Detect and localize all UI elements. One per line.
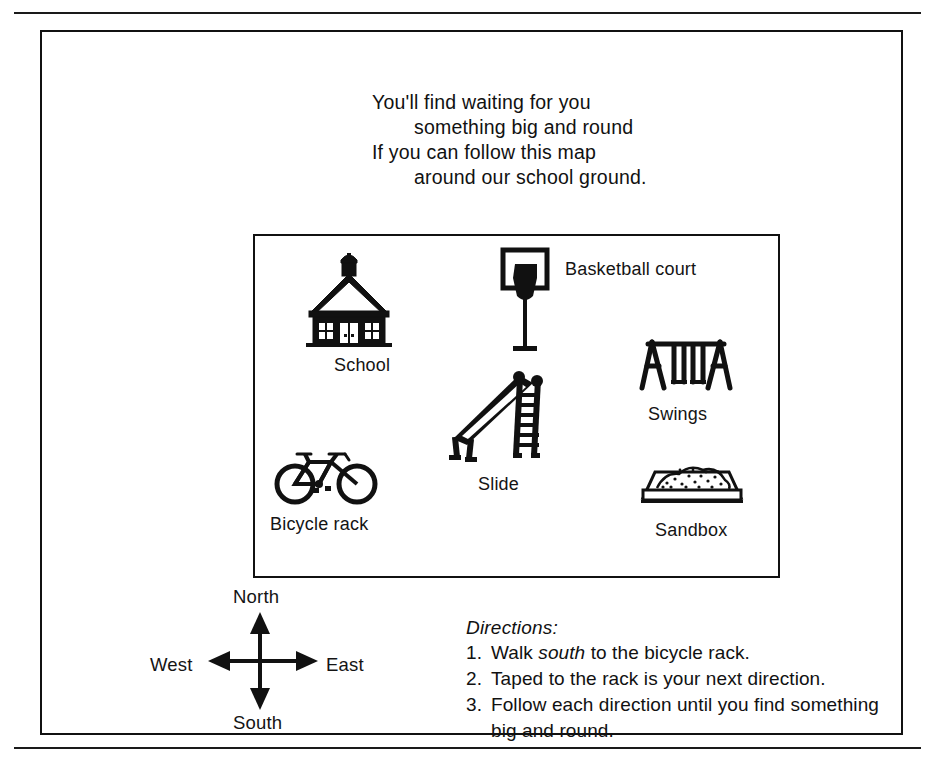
content-frame: You'll find waiting for you something bi… xyxy=(40,30,903,735)
poem-line-2: something big and round xyxy=(372,115,792,140)
poem-block: You'll find waiting for you something bi… xyxy=(372,90,792,190)
map-item-sandbox: Sandbox xyxy=(637,454,747,541)
playground-slide-icon xyxy=(441,369,551,473)
bicycle-icon xyxy=(269,444,387,510)
direction-step-1: 1. Walk south to the bicycle rack. xyxy=(466,640,896,666)
direction-text-3: Follow each direction until you find som… xyxy=(491,692,896,744)
worksheet-page: You'll find waiting for you something bi… xyxy=(0,0,935,769)
map-item-swings: Swings xyxy=(638,336,734,425)
direction-text-2: Taped to the rack is your next direction… xyxy=(491,666,896,692)
directions-list: 1. Walk south to the bicycle rack. 2. Ta… xyxy=(466,640,896,744)
map-label-school: School xyxy=(334,354,405,376)
bottom-rule xyxy=(14,747,921,749)
direction-text-1-before: Walk xyxy=(491,642,538,663)
basketball-hoop-icon xyxy=(497,246,553,362)
compass-label-south: South xyxy=(233,712,282,733)
directions-block: Directions: 1. Walk south to the bicycle… xyxy=(466,615,896,744)
map-label-sandbox: Sandbox xyxy=(655,519,747,541)
direction-number-1: 1. xyxy=(466,640,491,666)
map-label-slide: Slide xyxy=(478,473,551,495)
directions-title: Directions: xyxy=(466,615,896,640)
compass-rose: North South West East xyxy=(150,584,380,739)
sandbox-icon xyxy=(637,454,747,516)
direction-text-1-after: to the bicycle rack. xyxy=(585,642,750,663)
compass-label-west: West xyxy=(150,654,193,675)
compass-label-east: East xyxy=(326,654,364,675)
map-label-bicycle-rack: Bicycle rack xyxy=(270,513,387,535)
swing-set-icon xyxy=(638,336,734,402)
direction-text-1: Walk south to the bicycle rack. xyxy=(491,640,896,666)
direction-number-2: 2. xyxy=(466,666,491,692)
map-label-basketball-court: Basketball court xyxy=(565,258,696,280)
map-item-bicycle-rack: Bicycle rack xyxy=(269,444,387,535)
direction-step-3: 3. Follow each direction until you find … xyxy=(466,692,896,744)
poem-line-1: You'll find waiting for you xyxy=(372,90,792,115)
top-rule xyxy=(14,12,921,14)
map-item-slide: Slide xyxy=(441,369,551,495)
direction-text-1-emphasis: south xyxy=(538,642,585,663)
compass-label-north: North xyxy=(233,586,279,607)
school-ground-map: School xyxy=(253,234,780,578)
direction-step-2: 2. Taped to the rack is your next direct… xyxy=(466,666,896,692)
direction-number-3: 3. xyxy=(466,692,491,718)
poem-line-3: If you can follow this map xyxy=(372,140,792,165)
poem-line-4: around our school ground. xyxy=(372,165,792,190)
map-label-swings: Swings xyxy=(648,403,734,425)
schoolhouse-icon xyxy=(293,248,405,352)
map-item-school: School xyxy=(293,248,405,376)
